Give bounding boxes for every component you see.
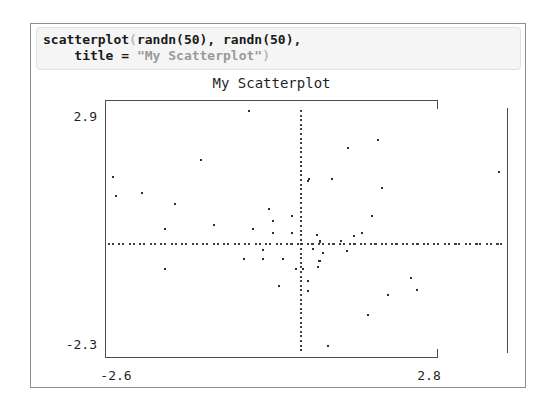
scatter-point bbox=[213, 224, 215, 226]
bottom-right-tick bbox=[437, 349, 438, 358]
scatter-point bbox=[322, 252, 324, 254]
code-open-paren: ( bbox=[129, 32, 137, 47]
top-right-tick bbox=[437, 100, 438, 109]
book-figure: scatterplot(randn(50), randn(50), title … bbox=[0, 0, 552, 413]
code-snippet: scatterplot(randn(50), randn(50), title … bbox=[36, 27, 521, 70]
y-tick-label-max: 2.9 bbox=[55, 109, 97, 125]
scatter-point bbox=[278, 285, 280, 287]
scatter-point bbox=[361, 232, 363, 234]
scatter-point bbox=[112, 176, 114, 178]
scatter-point bbox=[346, 250, 348, 252]
top-spine bbox=[105, 100, 438, 101]
scatter-point bbox=[371, 215, 373, 217]
scatter-point bbox=[387, 294, 389, 296]
scatter-point bbox=[262, 249, 264, 251]
scatter-point bbox=[331, 178, 333, 180]
scatter-point bbox=[272, 232, 274, 234]
scatter-point bbox=[312, 248, 314, 250]
scatter-point bbox=[268, 208, 270, 210]
scatter-point bbox=[141, 192, 143, 194]
code-line-2: title = "My Scatterplot") bbox=[43, 48, 270, 63]
code-args: randn(50), randn(50), bbox=[137, 32, 301, 47]
scatter-point bbox=[347, 147, 349, 149]
zero-line-horizontal bbox=[108, 243, 503, 245]
scatter-point bbox=[410, 277, 412, 279]
scatter-point bbox=[340, 240, 342, 242]
scatter-point bbox=[316, 234, 318, 236]
scatter-point bbox=[319, 240, 321, 242]
scatter-point bbox=[308, 178, 310, 180]
scatter-point bbox=[317, 266, 319, 268]
code-close-paren: ) bbox=[262, 48, 270, 63]
x-tick-label-min: -2.6 bbox=[86, 368, 146, 384]
scatter-point bbox=[200, 159, 202, 161]
scatter-point bbox=[164, 268, 166, 270]
scatter-point bbox=[416, 289, 418, 291]
scatter-point bbox=[291, 232, 293, 234]
right-spine bbox=[507, 108, 508, 353]
scatter-point bbox=[498, 171, 500, 173]
scatter-point bbox=[367, 314, 369, 316]
code-title-kwarg: title = bbox=[43, 48, 137, 63]
chart-title: My Scatterplot bbox=[105, 75, 438, 91]
scatter-point bbox=[381, 187, 383, 189]
code-function-name: scatterplot bbox=[43, 32, 129, 47]
code-line-1: scatterplot(randn(50), randn(50), bbox=[43, 32, 301, 47]
scatter-point bbox=[282, 258, 284, 260]
scatter-point bbox=[377, 139, 379, 141]
scatter-point bbox=[272, 220, 274, 222]
scatter-point bbox=[295, 268, 297, 270]
scatter-point bbox=[302, 268, 304, 270]
scatter-point bbox=[307, 180, 309, 182]
scatter-point bbox=[115, 195, 117, 197]
y-axis-spine bbox=[105, 100, 106, 358]
scatter-point bbox=[291, 215, 293, 217]
scatter-point bbox=[164, 228, 166, 230]
scatter-point bbox=[262, 258, 264, 260]
scatter-point bbox=[243, 258, 245, 260]
scatter-point bbox=[174, 203, 176, 205]
scatter-point bbox=[327, 345, 329, 347]
scatter-point bbox=[307, 290, 309, 292]
scatter-point bbox=[318, 260, 320, 262]
scatter-point bbox=[353, 235, 355, 237]
scatter-point bbox=[252, 228, 254, 230]
code-string: "My Scatterplot" bbox=[137, 48, 262, 63]
scatter-point bbox=[248, 110, 250, 112]
scatter-point bbox=[307, 280, 309, 282]
y-tick-label-min: -2.3 bbox=[50, 337, 97, 353]
zero-line-vertical bbox=[300, 110, 302, 353]
x-axis-spine bbox=[105, 357, 438, 358]
x-tick-label-max: 2.8 bbox=[399, 368, 459, 384]
